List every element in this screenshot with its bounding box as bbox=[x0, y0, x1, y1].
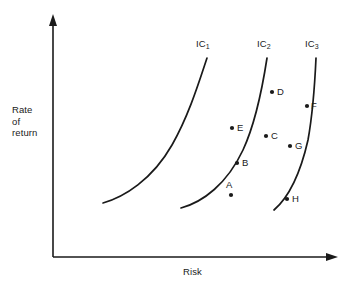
data-point-a bbox=[229, 193, 233, 197]
y-axis-arrowhead bbox=[49, 14, 57, 26]
data-point-e bbox=[230, 126, 234, 130]
curve-label-ic3-text: IC bbox=[305, 38, 315, 49]
indifference-curve-ic2 bbox=[181, 58, 267, 208]
point-label-e: E bbox=[237, 122, 243, 133]
curve-label-ic2-subscript: 2 bbox=[267, 43, 271, 50]
data-point-b bbox=[235, 161, 239, 165]
point-label-h: H bbox=[292, 193, 299, 204]
curve-label-ic2-text: IC bbox=[257, 38, 267, 49]
point-label-a: A bbox=[226, 179, 232, 190]
indifference-curve-ic1 bbox=[103, 58, 207, 203]
curve-label-ic3: IC3 bbox=[305, 38, 319, 49]
x-axis-label: Risk bbox=[183, 266, 202, 278]
curve-label-ic2: IC2 bbox=[257, 38, 271, 49]
point-label-g: G bbox=[295, 140, 303, 151]
data-point-h bbox=[285, 197, 289, 201]
point-label-d: D bbox=[277, 86, 284, 97]
point-label-b: B bbox=[242, 157, 248, 168]
data-point-c bbox=[264, 134, 268, 138]
data-point-d bbox=[270, 90, 274, 94]
curve-label-ic3-subscript: 3 bbox=[315, 43, 319, 50]
indifference-curves-group bbox=[103, 58, 316, 210]
indifference-curve-ic3 bbox=[274, 58, 316, 210]
curve-label-ic1-subscript: 1 bbox=[206, 43, 210, 50]
point-label-c: C bbox=[271, 130, 278, 141]
curve-label-ic1-text: IC bbox=[196, 38, 206, 49]
data-point-f bbox=[305, 104, 309, 108]
axes-group bbox=[49, 14, 338, 261]
point-label-f: F bbox=[311, 100, 317, 111]
data-point-g bbox=[288, 144, 292, 148]
y-axis-label: Rate of return bbox=[12, 104, 37, 139]
x-axis-arrowhead bbox=[326, 253, 338, 261]
indifference-curve-diagram: Rate of return Risk IC1 IC2 IC3 A B C D … bbox=[0, 0, 359, 288]
curve-label-ic1: IC1 bbox=[196, 38, 210, 49]
